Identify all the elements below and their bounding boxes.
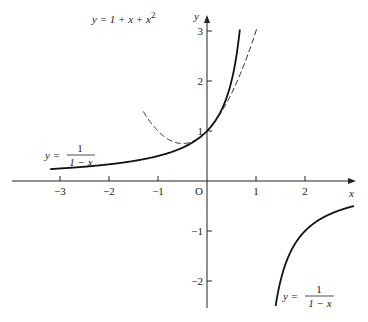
quadratic-label-text: y = 1 + x + x2 [91,10,155,25]
y-axis-arrow-icon [204,15,210,23]
rational-label-left: y = 1 1 − x [44,142,95,168]
rational-label-left-numerator: 1 [77,142,83,154]
x-tick-label: −2 [103,185,115,197]
x-tick-label: −3 [54,185,66,197]
rational-label-left-denominator: 1 − x [69,156,92,168]
rational-label-right: y = 1 1 − x [282,283,334,309]
curves [50,28,354,306]
rational-label-right-lhs: y = [282,290,298,302]
y-tick-label: −1 [191,225,203,237]
x-axis-arrow-icon [348,178,356,184]
x-tick-label: 2 [302,185,308,197]
x-tick-label: −1 [152,185,164,197]
rational-label-right-numerator: 1 [316,283,322,295]
y-tick-label: −2 [191,275,203,287]
quadratic-label-body: y = 1 + x + x [91,13,151,25]
x-axis-label: x [348,187,354,199]
y-axis-label: y [193,10,199,22]
axes [12,15,356,308]
quadratic-label-exponent: 2 [151,10,156,20]
x-tick-label: 1 [253,185,259,197]
rational-label-right-denominator: 1 − x [308,297,331,309]
y-tick-label: 2 [198,75,204,87]
y-tick-label: 3 [198,25,204,37]
function-plot: −3−2−112−2−1123 x y O y = 1 + x + x2 y =… [0,0,368,322]
origin-label: O [195,185,203,197]
rational-label-left-lhs: y = [44,149,60,161]
quadratic-label: y = 1 + x + x2 [91,10,155,25]
